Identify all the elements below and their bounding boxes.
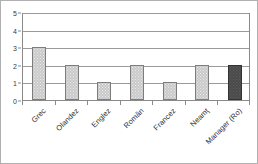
y-axis-tick-mark — [18, 101, 21, 102]
bar-slot — [186, 14, 219, 100]
y-axis-tick-label: 4 — [13, 27, 17, 34]
bar-chart: 012345 GrecOlandezEnglezRomânFrancezNeam… — [0, 0, 258, 164]
y-axis-tick-label: 5 — [13, 10, 17, 17]
y-axis-tick-mark — [18, 65, 21, 66]
x-axis-category-label: Francez — [153, 107, 178, 132]
plot-area — [22, 13, 250, 101]
y-axis-tick-mark — [18, 83, 21, 84]
bar-slot — [121, 14, 154, 100]
bar[interactable] — [130, 65, 144, 100]
y-axis-tick-mark — [18, 13, 21, 14]
bar-slot — [88, 14, 121, 100]
x-axis-category-label: Englez — [91, 107, 113, 129]
y-axis-tick-label: 3 — [13, 45, 17, 52]
x-axis-tick-mark — [249, 101, 250, 105]
y-axis-tick-label: 0 — [13, 98, 17, 105]
bar[interactable] — [163, 82, 177, 100]
x-axis-category-label: Român — [122, 107, 145, 130]
y-axis-tick-mark — [18, 48, 21, 49]
y-axis: 012345 — [1, 13, 21, 101]
bars-layer — [23, 14, 249, 100]
x-axis-tick-mark — [22, 101, 23, 105]
x-axis-tick-mark — [217, 101, 218, 105]
x-axis-tick-mark — [152, 101, 153, 105]
x-axis-tick-mark — [55, 101, 56, 105]
bar-slot — [218, 14, 251, 100]
x-axis-category-label: Olandez — [55, 107, 81, 133]
bar-slot — [23, 14, 56, 100]
x-axis: GrecOlandezEnglezRomânFrancezNeamţManage… — [22, 101, 250, 163]
bar[interactable] — [195, 65, 209, 100]
x-axis-category-label: Neamţ — [189, 107, 210, 128]
x-axis-category-label: Grec — [30, 107, 47, 124]
y-axis-tick-mark — [18, 30, 21, 31]
x-axis-tick-mark — [185, 101, 186, 105]
bar[interactable] — [65, 65, 79, 100]
bar[interactable] — [228, 65, 242, 100]
y-axis-tick-label: 2 — [13, 62, 17, 69]
bar-slot — [153, 14, 186, 100]
bar-slot — [56, 14, 89, 100]
x-axis-tick-mark — [120, 101, 121, 105]
bar[interactable] — [97, 82, 111, 100]
x-axis-tick-mark — [87, 101, 88, 105]
bar[interactable] — [32, 47, 46, 100]
y-axis-tick-label: 1 — [13, 80, 17, 87]
